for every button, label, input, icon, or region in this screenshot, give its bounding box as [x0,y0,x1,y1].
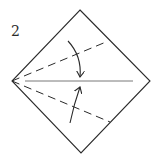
diagram-canvas [0,0,157,159]
upper-valley-fold-line [12,42,106,81]
lower-valley-fold-line [12,81,110,122]
lower-fold-arrow-icon [70,87,80,123]
upper-fold-arrow-icon [68,41,80,77]
paper-square-outline [12,10,150,153]
